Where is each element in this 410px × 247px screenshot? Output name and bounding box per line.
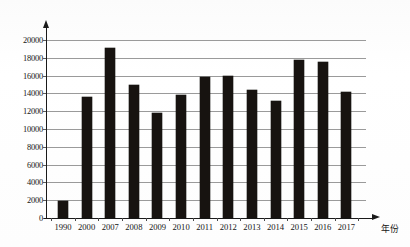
y-axis-tick-label: 2000 — [27, 196, 43, 205]
y-axis-tick-label: 6000 — [27, 160, 43, 169]
bar-chart-figure: 0200040006000800010000120001400016000180… — [0, 0, 410, 247]
x-axis-tick-label: 2010 — [172, 222, 189, 232]
bar-1990 — [58, 201, 68, 218]
x-axis-tick-label: 2011 — [196, 222, 213, 232]
bar-series — [46, 40, 366, 218]
x-axis-tick-label: 2008 — [125, 222, 142, 232]
y-axis-tick-label: 10000 — [23, 125, 43, 134]
bar-2014 — [271, 101, 281, 218]
y-axis-tick-label: 8000 — [27, 142, 43, 151]
bar-2011 — [200, 77, 210, 219]
x-axis-tick-mark — [217, 218, 218, 221]
x-axis-tick-label: 2007 — [102, 222, 119, 232]
x-axis-tick-label: 2012 — [220, 222, 237, 232]
x-axis-tick-mark — [358, 218, 359, 221]
x-axis-tick-mark — [193, 218, 194, 221]
y-axis-tick-label: 18000 — [23, 53, 43, 62]
bar-2016 — [318, 62, 328, 218]
x-axis-tick-label: 2016 — [314, 222, 331, 232]
bar-2007 — [105, 48, 115, 218]
x-axis-tick-mark — [51, 218, 52, 221]
y-axis-arrow-icon — [43, 20, 49, 28]
y-axis-tick-label: 4000 — [27, 178, 43, 187]
x-axis-tick-label: 2017 — [338, 222, 355, 232]
x-axis-tick-label: 1990 — [54, 222, 71, 232]
bar-2000 — [82, 97, 92, 218]
bar-2017 — [341, 92, 351, 218]
x-axis-tick-mark — [122, 218, 123, 221]
x-axis-tick-label: 2013 — [243, 222, 260, 232]
bar-2009 — [152, 113, 162, 218]
y-axis-tick-label: 16000 — [23, 71, 43, 80]
x-axis-tick-mark — [169, 218, 170, 221]
bar-2008 — [129, 85, 139, 218]
y-axis-tick-label: 20000 — [23, 36, 43, 45]
x-axis-tick-mark — [335, 218, 336, 221]
bar-2012 — [223, 76, 233, 218]
bar-2015 — [294, 60, 304, 218]
x-axis-tick-mark — [240, 218, 241, 221]
x-axis-title: 年份 — [381, 222, 399, 235]
x-axis-tick-mark — [98, 218, 99, 221]
x-axis-tick-mark — [287, 218, 288, 221]
y-axis-tick-label: 12000 — [23, 107, 43, 116]
x-axis-arrow-icon — [372, 214, 380, 220]
x-axis-tick-label: 2014 — [267, 222, 284, 232]
x-axis-tick-mark — [264, 218, 265, 221]
y-axis-tick-group: 0200040006000800010000120001400016000180… — [0, 0, 43, 247]
x-axis-tick-label: 2009 — [149, 222, 166, 232]
x-axis-tick-mark — [75, 218, 76, 221]
x-axis-tick-label: 2000 — [78, 222, 95, 232]
y-axis-tick-label: 14000 — [23, 89, 43, 98]
x-axis-tick-label: 2015 — [291, 222, 308, 232]
bar-2010 — [176, 95, 186, 218]
x-axis-tick-mark — [146, 218, 147, 221]
bar-2013 — [247, 90, 257, 218]
x-axis-tick-mark — [311, 218, 312, 221]
